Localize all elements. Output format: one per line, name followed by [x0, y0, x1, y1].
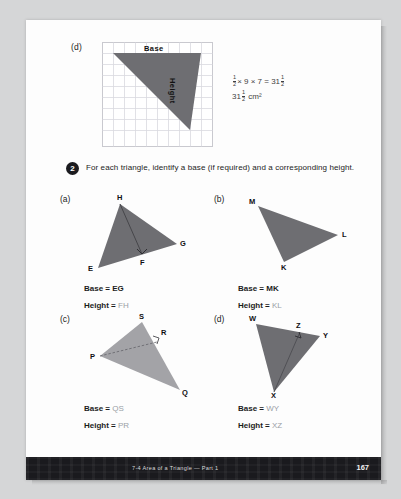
problem-a-figure: H G F E	[58, 192, 210, 282]
calculation-mid: × 9 × 7 =	[237, 77, 269, 86]
base-value-b: MK	[266, 284, 278, 293]
vertex-label-r: R	[161, 328, 166, 337]
height-label-d: Height =	[238, 421, 270, 430]
result-whole: 31	[271, 77, 280, 86]
question-text: For each triangle, identify a base (if r…	[86, 163, 354, 172]
answer-whole: 31	[232, 92, 241, 101]
vertex-label-y: Y	[323, 331, 328, 340]
problem-d-height-row: Height = XZ	[238, 417, 282, 434]
screenshot-root: (d)	[0, 0, 401, 499]
problem-c-answers: Base = QS Height = PR	[84, 400, 129, 434]
vertex-label-q: Q	[182, 388, 188, 397]
height-value-c: PR	[118, 421, 129, 430]
triangle-b-shape	[258, 206, 338, 262]
calculation-line-1: 12× 9 × 7 = 3112	[232, 74, 285, 89]
answer-fraction: 12	[242, 90, 245, 102]
height-value-b: KL	[272, 301, 282, 310]
height-label-c: Height =	[84, 421, 116, 430]
result-fraction: 12	[281, 75, 284, 87]
worked-example: (d)	[26, 20, 381, 155]
vertex-label-k: K	[281, 263, 286, 272]
base-value-a: EG	[112, 284, 124, 293]
vertex-label-p: P	[90, 352, 95, 361]
height-value-d: XZ	[272, 421, 282, 430]
right-angle-mark-c	[153, 336, 159, 344]
problem-d-answers: Base = WY Height = XZ	[238, 400, 282, 434]
problem-d: (d) W Z Y X Base = WY Height = XZ	[212, 312, 364, 430]
page-number: 167	[356, 463, 369, 472]
grid-svg	[102, 42, 216, 147]
vertex-label-h: H	[117, 193, 122, 202]
calculation-line-2: 3112 cm²	[232, 89, 285, 104]
vertex-label-z: Z	[296, 321, 301, 330]
triangle-d-svg	[212, 312, 364, 402]
example-calculation: 12× 9 × 7 = 3112 3112 cm²	[232, 74, 285, 104]
question-number-badge: 2	[66, 162, 79, 175]
height-value-a: FH	[118, 301, 129, 310]
base-label-b: Base =	[238, 284, 264, 293]
example-label: (d)	[71, 42, 82, 52]
answer-unit: cm²	[248, 92, 261, 101]
page-shadow-bottom	[32, 480, 387, 485]
page-footer: 7-4 Area of a Triangle — Part 1 167	[26, 457, 381, 480]
problem-d-figure: W Z Y X	[212, 312, 364, 402]
vertex-label-m: M	[249, 197, 255, 206]
example-base-label: Base	[144, 44, 164, 53]
footer-section-title: 7-4 Area of a Triangle — Part 1	[132, 465, 218, 471]
problem-b: (b) M L K Base = MK Height = KL	[212, 192, 364, 310]
problem-d-base-row: Base = WY	[238, 400, 282, 417]
vertex-label-l: L	[342, 230, 347, 239]
problem-a: (a) H G F E Base = EG Height = FH	[58, 192, 210, 310]
triangle-a-shape	[98, 204, 177, 268]
base-label-c: Base =	[84, 404, 110, 413]
vertex-label-w: W	[249, 314, 256, 323]
one-half-fraction: 12	[233, 75, 236, 87]
worksheet-page: (d)	[26, 20, 381, 480]
base-label-d: Base =	[238, 404, 264, 413]
height-label-b: Height =	[238, 301, 270, 310]
base-value-c: QS	[112, 404, 124, 413]
problem-c-base-row: Base = QS	[84, 400, 129, 417]
problem-c-height-row: Height = PR	[84, 417, 129, 434]
base-value-d: WY	[266, 404, 279, 413]
problem-b-base-row: Base = MK	[238, 280, 282, 297]
triangle-d-shape	[256, 324, 320, 392]
example-height-label: Height	[168, 78, 177, 104]
problem-a-answers: Base = EG Height = FH	[84, 280, 129, 314]
vertex-label-s: S	[139, 312, 144, 321]
problem-a-base-row: Base = EG	[84, 280, 129, 297]
vertex-label-x: X	[271, 391, 276, 400]
base-label-a: Base =	[84, 284, 110, 293]
vertex-label-f: F	[140, 258, 145, 267]
problem-c: (c) S R P Q Base = QS Height = PR	[58, 312, 210, 430]
problem-b-answers: Base = MK Height = KL	[238, 280, 282, 314]
vertex-label-e: E	[88, 264, 93, 273]
problem-c-figure: S R P Q	[58, 312, 210, 402]
problem-b-figure: M L K	[212, 192, 364, 282]
triangle-c-shape	[100, 322, 180, 390]
vertex-label-g: G	[180, 239, 186, 248]
grid-figure	[102, 42, 216, 147]
page-shadow-right	[381, 26, 387, 484]
triangle-a-svg	[58, 192, 210, 282]
height-label-a: Height =	[84, 301, 116, 310]
